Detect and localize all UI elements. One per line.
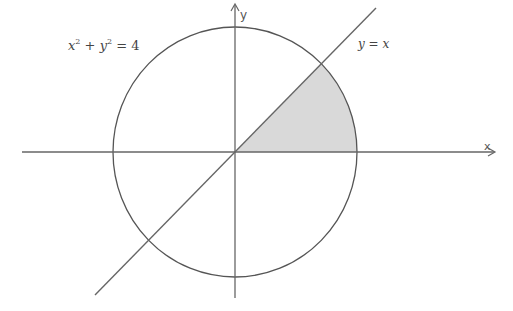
line-equation-label: y = x — [357, 37, 389, 51]
diagram-canvas: x2 + y2 = 4 y = x x y — [0, 0, 513, 311]
y-axis-label: y — [240, 8, 247, 22]
x-axis-label: x — [484, 140, 491, 153]
circle-equation-label: x2 + y2 = 4 — [68, 37, 140, 53]
shaded-region — [235, 64, 357, 152]
